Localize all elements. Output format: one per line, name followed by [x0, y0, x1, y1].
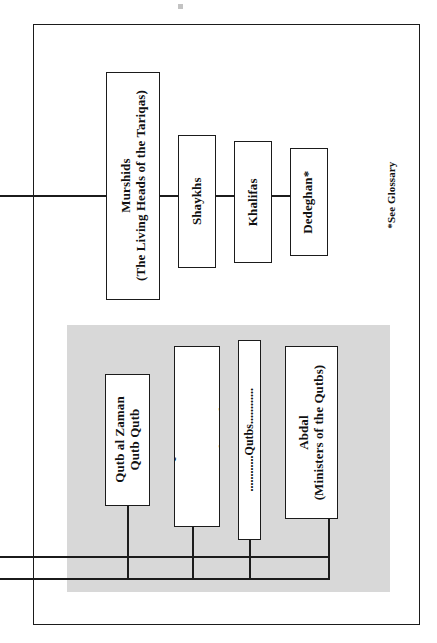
node-dedeghan-label: Dedeghan* — [302, 170, 317, 233]
node-qutb-directions-north: Qutb North — [215, 403, 220, 469]
node-shaykhs[interactable]: Shaykhs — [178, 135, 216, 268]
connector-trunk-upper — [0, 556, 330, 558]
node-murshids[interactable]: Murshids (The Living Heads of the Tariqa… — [106, 72, 160, 300]
node-qutb-directions-col-north-east: Qutb North Qutb East — [216, 403, 220, 469]
node-qutbs-ellipsis-label: ............Qutbs............ — [243, 388, 256, 491]
footnote-label: *See Glossary — [385, 162, 397, 229]
connector-stem-qutb-directions — [192, 527, 194, 580]
node-qutb-directions-col-south-west: Qutb South Qutb West — [174, 404, 177, 470]
node-shaykhs-label: Shaykhs — [190, 178, 205, 226]
node-qutb-directions[interactable]: Qutb South Qutb West Qutb North Qutb Eas… — [174, 346, 220, 527]
connector-stem-abdal — [328, 519, 330, 559]
node-murshids-line1: Murshids — [117, 159, 132, 213]
scan-artifact — [178, 4, 183, 9]
node-qutbs-ellipsis[interactable]: ............Qutbs............ — [238, 340, 261, 540]
node-khalifas[interactable]: Khalifas — [234, 141, 272, 263]
node-abdal[interactable]: Abdal (Ministers of the Qutbs) — [285, 346, 338, 519]
node-dedeghan[interactable]: Dedeghan* — [290, 148, 328, 256]
node-qutb-al-zaman-line2: Qutb Qutb — [128, 397, 143, 484]
node-murshids-line2: (The Living Heads of the Tariqas) — [133, 91, 148, 282]
node-murshids-label: Murshids (The Living Heads of the Tariqa… — [118, 91, 147, 282]
node-qutbs-ellipsis-text: ............Qutbs............ — [242, 388, 256, 491]
node-qutb-al-zaman-label: Qutb al Zaman Qutb Qutb — [113, 397, 142, 484]
footnote: *See Glossary — [380, 160, 402, 230]
node-qutb-al-zaman[interactable]: Qutb al Zaman Qutb Qutb — [105, 374, 150, 506]
node-khalifas-line1: Khalifas — [245, 178, 260, 226]
node-qutb-al-zaman-line1: Qutb al Zaman — [112, 397, 127, 484]
connector-stem-qutbs-ellipsis — [249, 540, 251, 580]
connector-khalifas-dedeghan — [272, 195, 290, 197]
connector-upper-spine — [0, 195, 106, 197]
connector-shaykhs-khalifas — [216, 195, 234, 197]
node-qutb-directions-west: Qutb West — [174, 404, 177, 470]
connector-stem-qutb-al-zaman — [127, 506, 129, 580]
node-khalifas-label: Khalifas — [246, 178, 261, 226]
node-shaykhs-line1: Shaykhs — [189, 178, 204, 226]
diagram-canvas: Murshids (The Living Heads of the Tariqa… — [0, 0, 437, 643]
connector-trunk-lower — [0, 578, 330, 580]
node-dedeghan-line1: Dedeghan* — [301, 170, 316, 233]
node-abdal-line1: Abdal — [296, 415, 311, 449]
connector-trunk-right-join — [328, 556, 330, 580]
node-abdal-label: Abdal (Ministers of the Qutbs) — [297, 365, 326, 501]
node-abdal-line2: (Ministers of the Qutbs) — [312, 365, 327, 501]
connector-murshids-shaykhs — [160, 195, 178, 197]
